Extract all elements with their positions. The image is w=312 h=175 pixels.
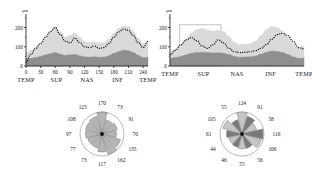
pieR-plot: 1249158116106565546446110555 — [206, 100, 281, 167]
y-tick-label: 100 — [15, 44, 23, 50]
left-line-chart: 0100200µm0306090120150180210240TEMPSUPNA… — [4, 4, 154, 92]
pie-sector-value: 162 — [117, 157, 125, 163]
y-tick-label: 0 — [164, 63, 167, 69]
left-pie-chart-panel: 170739170135162117737797108123 — [46, 96, 158, 172]
left-line-chart-panel: 0100200µm0306090120150180210240TEMPSUPNA… — [4, 4, 154, 92]
pie-sector-value: 44 — [210, 146, 216, 152]
region-label-temp-0: TEMP — [17, 76, 35, 83]
pie-sector-value: 117 — [98, 161, 106, 167]
region-label-temp-0: TEMP — [161, 70, 179, 77]
pie-sector-value: 55 — [221, 104, 227, 110]
x-tick-label: 60 — [53, 69, 59, 75]
pie-sector-value: 170 — [98, 100, 106, 106]
pie-sector-value: 105 — [207, 116, 215, 122]
y-tick-label: 200 — [15, 25, 23, 31]
y-axis-unit-label: µm — [22, 8, 29, 13]
right-line-chart: 0100200µmTEMPSUPNASINFTEMP — [148, 4, 310, 92]
region-label-temp-4: TEMP — [295, 70, 312, 77]
pie-hub — [100, 132, 104, 136]
pie-sector-value: 46 — [221, 157, 227, 163]
x-tick-label: 90 — [67, 69, 73, 75]
pieL-plot: 170739170135162117737797108123 — [66, 100, 138, 167]
right-pie-chart: 1249158116106565546446110555 — [186, 96, 298, 172]
y-axis-unit-label: µm — [166, 8, 173, 13]
y-tick-label: 200 — [159, 25, 167, 31]
pie-sector-value: 97 — [66, 131, 72, 137]
x-tick-label: 210 — [125, 69, 133, 75]
svgL-plot: 0100200µm0306090120150180210240TEMPSUPNA… — [15, 8, 157, 83]
pie-sector-value: 108 — [67, 116, 75, 122]
x-tick-label: 30 — [38, 69, 44, 75]
pie-sector-value: 91 — [257, 104, 263, 110]
y-tick-label: 100 — [159, 44, 167, 50]
pie-sector-value: 135 — [128, 146, 136, 152]
pie-hub — [240, 132, 244, 136]
pie-sector-value: 91 — [128, 116, 134, 122]
right-line-chart-panel: 0100200µmTEMPSUPNASINFTEMP — [148, 4, 310, 92]
x-tick-label: 240 — [139, 69, 147, 75]
pie-sector-value: 116 — [273, 131, 281, 137]
region-label-nas-2: NAS — [231, 70, 244, 77]
region-label-inf-3: INF — [265, 70, 276, 77]
pie-sector-value: 70 — [133, 131, 139, 137]
pie-sector-value: 73 — [81, 157, 87, 163]
region-label-nas-2: NAS — [81, 76, 94, 83]
region-label-sup-1: SUP — [51, 76, 63, 83]
x-tick-label: 0 — [25, 69, 28, 75]
pie-sector-value: 77 — [70, 146, 76, 152]
svgR-plot: 0100200µmTEMPSUPNASINFTEMP — [159, 8, 312, 77]
region-label-sup-1: SUP — [198, 70, 210, 77]
pie-sector-value: 106 — [268, 146, 276, 152]
pie-sector-value: 73 — [117, 104, 123, 110]
pie-sector-value: 56 — [257, 157, 263, 163]
pie-sector-value: 124 — [238, 100, 246, 106]
x-tick-label: 120 — [81, 69, 89, 75]
y-tick-label: 0 — [20, 63, 23, 69]
pie-sector-value: 58 — [268, 116, 274, 122]
x-tick-label: 180 — [110, 69, 118, 75]
pie-sector-value: 55 — [239, 161, 245, 167]
right-pie-chart-panel: 1249158116106565546446110555 — [186, 96, 298, 172]
region-label-inf-3: INF — [112, 76, 123, 83]
pie-sector-value: 61 — [206, 131, 212, 137]
x-tick-label: 150 — [95, 69, 103, 75]
left-pie-chart: 170739170135162117737797108123 — [46, 96, 158, 172]
pie-sector-value: 123 — [79, 104, 87, 110]
